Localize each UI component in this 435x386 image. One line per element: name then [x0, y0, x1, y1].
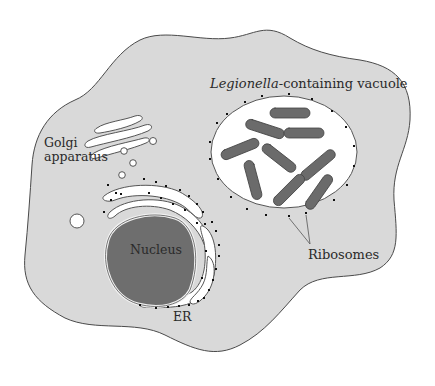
- er-label: ER: [173, 309, 192, 324]
- nucleus-label: Nucleus: [130, 242, 182, 257]
- golgi-label-line1: Golgi: [44, 135, 78, 150]
- golgi-label-line2: apparatus: [44, 149, 108, 164]
- vesicle: [150, 138, 157, 145]
- vesicle: [70, 214, 84, 228]
- cell-diagram: Legionella-containing vacuole Golgi appa…: [0, 0, 435, 386]
- vesicle: [121, 148, 128, 155]
- vacuole-label: Legionella-containing vacuole: [209, 76, 408, 91]
- vesicle: [130, 160, 137, 167]
- nucleus: [106, 215, 196, 307]
- vesicle: [119, 172, 126, 179]
- ribosomes-label: Ribosomes: [308, 247, 379, 262]
